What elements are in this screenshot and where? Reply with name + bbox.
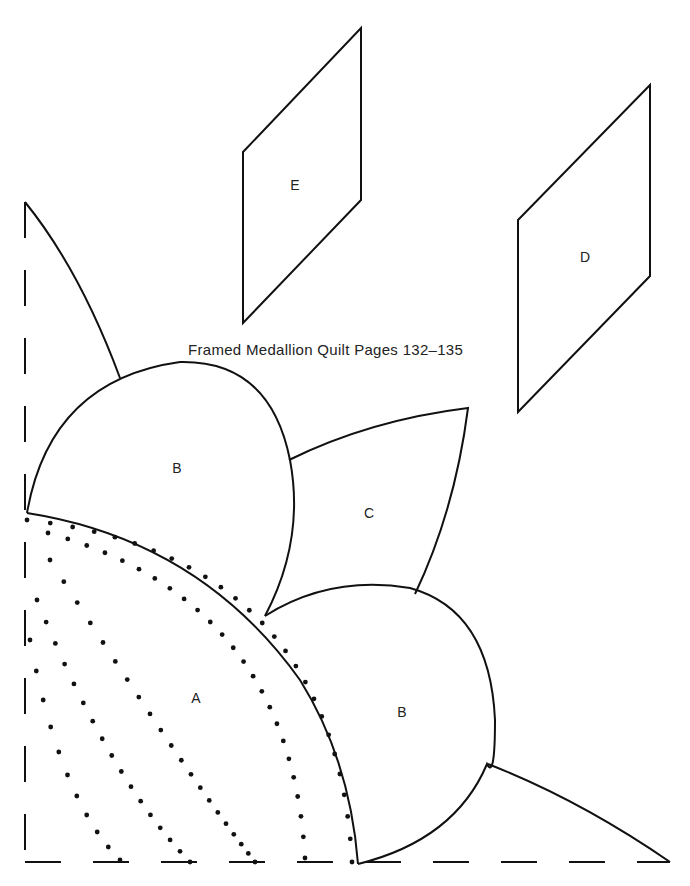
quilting-dot bbox=[179, 758, 184, 763]
quilting-dot bbox=[189, 772, 194, 777]
quilting-dot bbox=[25, 518, 30, 523]
quilting-dot bbox=[203, 574, 208, 579]
quilting-dot bbox=[132, 541, 137, 546]
quilting-dot bbox=[48, 558, 53, 563]
quilting-dot bbox=[169, 556, 174, 561]
quilting-dot bbox=[101, 640, 106, 645]
quilting-dot bbox=[208, 620, 213, 625]
pattern-page: E D B C A B Framed Medallion Quilt Pages… bbox=[0, 0, 690, 886]
quilting-dot bbox=[44, 620, 49, 625]
quilting-dot bbox=[293, 664, 298, 669]
quilting-dot bbox=[137, 567, 142, 572]
quilting-dot bbox=[167, 586, 172, 591]
quilting-dot bbox=[319, 714, 324, 719]
quilting-dot bbox=[251, 674, 256, 679]
piece-c-shape bbox=[289, 408, 468, 594]
quilting-dot bbox=[90, 719, 95, 724]
leaf-lower-right bbox=[488, 764, 670, 862]
pattern-title: Framed Medallion Quilt Pages 132–135 bbox=[188, 341, 463, 358]
quilting-dot bbox=[118, 858, 123, 863]
quilting-dot bbox=[35, 598, 40, 603]
quilting-dot bbox=[187, 565, 192, 570]
quilting-dot bbox=[84, 813, 89, 818]
quilting-dot bbox=[295, 794, 300, 799]
quilting-dot bbox=[195, 608, 200, 613]
quilting-dot bbox=[220, 632, 225, 637]
quilting-dot bbox=[345, 814, 350, 819]
quilt-pattern-diagram: E D B C A B Framed Medallion Quilt Pages… bbox=[0, 0, 690, 886]
label-b-upper: B bbox=[172, 460, 181, 476]
quilting-dot bbox=[62, 662, 67, 667]
quilting-dot bbox=[283, 649, 288, 654]
quilting-dot bbox=[272, 634, 277, 639]
quilting-dot bbox=[152, 576, 157, 581]
piece-e-shape bbox=[243, 28, 361, 323]
quilting-dot bbox=[299, 814, 304, 819]
quilting-dot bbox=[75, 600, 80, 605]
label-e: E bbox=[290, 177, 299, 193]
label-c: C bbox=[364, 505, 374, 521]
quilting-dot bbox=[112, 535, 117, 540]
quilting-dot bbox=[65, 773, 70, 778]
quilting-dot bbox=[267, 705, 272, 710]
quilting-dot bbox=[247, 608, 252, 613]
quilting-dot bbox=[168, 838, 173, 843]
quilting-dot bbox=[169, 743, 174, 748]
quilting-dot bbox=[151, 548, 156, 553]
quilting-dot bbox=[231, 832, 236, 837]
quilting-dot bbox=[342, 792, 347, 797]
piece-b-lower-shape bbox=[265, 585, 495, 864]
quilting-dot bbox=[198, 785, 203, 790]
quilting-dot bbox=[120, 558, 125, 563]
quilting-dot bbox=[148, 712, 153, 717]
quilting-dot bbox=[218, 585, 223, 590]
quilting-dot bbox=[312, 696, 317, 701]
quilting-dot bbox=[109, 753, 114, 758]
quilting-dot bbox=[275, 721, 280, 726]
quilting-dot bbox=[129, 784, 134, 789]
quilting-dot bbox=[65, 537, 70, 542]
quilting-dot bbox=[53, 641, 58, 646]
quilting-dot bbox=[239, 842, 244, 847]
quilting-dot bbox=[158, 825, 163, 830]
quilting-dot bbox=[246, 851, 251, 856]
quilting-dot bbox=[148, 812, 153, 817]
label-a: A bbox=[191, 690, 201, 706]
quilting-dot bbox=[178, 849, 183, 854]
quilting-dot bbox=[301, 834, 306, 839]
quilting-dot bbox=[34, 669, 39, 674]
quilting-dot bbox=[253, 860, 258, 865]
quilting-dot bbox=[74, 794, 79, 799]
quilting-dot bbox=[259, 689, 264, 694]
quilting-dot bbox=[291, 775, 296, 780]
quilting-dot bbox=[113, 659, 118, 664]
quilting-dot bbox=[41, 698, 46, 703]
quilting-dot bbox=[56, 750, 61, 755]
quilting-dot bbox=[207, 798, 212, 803]
quilting-dot bbox=[182, 596, 187, 601]
quilting-dot bbox=[348, 836, 353, 841]
quilting-dot bbox=[28, 638, 33, 643]
quilting-dot bbox=[70, 525, 75, 530]
quilting-dot bbox=[136, 695, 141, 700]
quilting-dot bbox=[92, 529, 97, 534]
quilting-dot bbox=[241, 659, 246, 664]
piece-a-shape bbox=[27, 513, 358, 864]
quilting-dot bbox=[188, 860, 193, 865]
label-d: D bbox=[580, 249, 590, 265]
quilting-dot bbox=[281, 739, 286, 744]
quilting-dot bbox=[215, 810, 220, 815]
quilting-dot bbox=[61, 579, 66, 584]
quilting-dot bbox=[84, 543, 89, 548]
quilting-dots bbox=[25, 518, 355, 865]
leaf-upper-left bbox=[25, 202, 120, 378]
quilting-dot bbox=[224, 821, 229, 826]
quilting-dot bbox=[138, 799, 143, 804]
quilting-dot bbox=[303, 856, 308, 861]
quilting-dot bbox=[337, 772, 342, 777]
quilting-dot bbox=[303, 680, 308, 685]
piece-b-upper-shape bbox=[27, 362, 294, 616]
quilting-dot bbox=[100, 736, 105, 741]
quilting-dot bbox=[103, 550, 108, 555]
quilting-dot bbox=[286, 756, 291, 761]
